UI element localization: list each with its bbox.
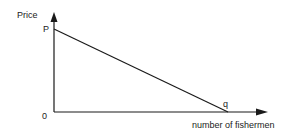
origin-label: 0 [42,112,47,121]
demand-line [54,29,228,112]
y-axis-label: Price [17,11,38,20]
y-axis-arrow-icon [51,12,58,22]
x-axis-arrow-icon [256,109,268,116]
x-axis-label: number of fishermen [192,121,275,130]
q-intercept-label: q [223,100,228,109]
p-intercept-label: P [43,25,49,34]
